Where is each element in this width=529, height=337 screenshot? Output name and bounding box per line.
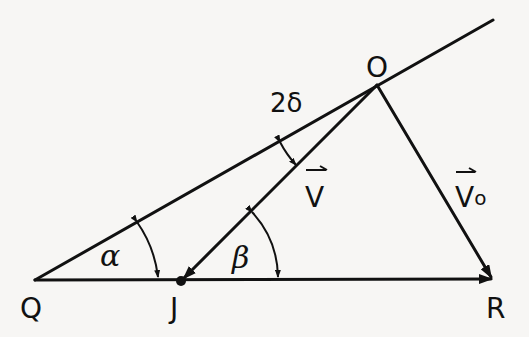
baseline-qr [35, 279, 491, 280]
angle-two-delta-arc [280, 142, 296, 165]
label-q: Q [20, 292, 42, 325]
label-beta: β [231, 240, 249, 275]
vector-diagram: O 2δ Q J R α β V Vo [0, 0, 529, 337]
label-vo: Vo [455, 181, 486, 214]
label-alpha: α [100, 238, 120, 273]
label-two-delta: 2δ [270, 88, 302, 118]
label-j: J [168, 292, 178, 325]
label-v: V [305, 181, 324, 214]
label-o: O [366, 51, 388, 84]
point-j-dot [176, 276, 186, 286]
label-vo-sub: o [474, 186, 486, 210]
label-r: R [486, 292, 505, 325]
angle-alpha-arc [137, 222, 158, 277]
angle-beta-arc [252, 212, 278, 277]
label-vo-main: V [455, 181, 474, 214]
